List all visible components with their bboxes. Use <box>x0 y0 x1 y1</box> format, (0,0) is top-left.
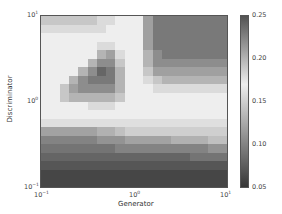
heatmap-cell <box>218 153 227 162</box>
heatmap-cell <box>171 161 180 170</box>
heatmap-cell <box>78 33 87 42</box>
heatmap-cell <box>106 127 115 136</box>
heatmap-cell <box>50 170 59 179</box>
heatmap-cell <box>199 93 208 102</box>
heatmap-cell <box>153 153 162 162</box>
heatmap-cell <box>143 153 152 162</box>
heatmap-cell <box>125 119 134 128</box>
heatmap-cell <box>41 153 50 162</box>
heatmap-cell <box>60 16 69 25</box>
heatmap-cell <box>190 178 199 187</box>
heatmap-cell <box>134 42 143 51</box>
heatmap-cell <box>125 16 134 25</box>
heatmap-cell <box>88 161 97 170</box>
heatmap-cell <box>115 84 124 93</box>
heatmap-cell <box>115 93 124 102</box>
heatmap-cell <box>218 84 227 93</box>
heatmap-cell <box>134 170 143 179</box>
heatmap-cell <box>171 50 180 59</box>
heatmap-cell <box>69 25 78 34</box>
heatmap-cell <box>78 102 87 111</box>
heatmap-cell <box>208 67 217 76</box>
heatmap-cell <box>106 16 115 25</box>
heatmap-cell <box>208 136 217 145</box>
heatmap-cell <box>171 178 180 187</box>
colorbar <box>240 15 249 188</box>
heatmap-cell <box>106 50 115 59</box>
heatmap-cell <box>190 102 199 111</box>
heatmap-cell <box>97 42 106 51</box>
heatmap-cell <box>199 161 208 170</box>
heatmap-cell <box>97 110 106 119</box>
heatmap-cell <box>162 59 171 68</box>
heatmap-cell <box>162 42 171 51</box>
heatmap-cell <box>50 110 59 119</box>
heatmap-cell <box>134 110 143 119</box>
heatmap-cell <box>171 102 180 111</box>
heatmap-cell <box>218 102 227 111</box>
heatmap-cell <box>50 136 59 145</box>
heatmap-cell <box>106 161 115 170</box>
heatmap-cell <box>190 42 199 51</box>
heatmap-cell <box>88 67 97 76</box>
heatmap-cell <box>60 33 69 42</box>
heatmap-cell <box>97 102 106 111</box>
heatmap-cell <box>218 33 227 42</box>
heatmap-cell <box>181 76 190 85</box>
heatmap-cell <box>181 110 190 119</box>
heatmap-cell <box>78 76 87 85</box>
heatmap-cell <box>69 170 78 179</box>
heatmap-cell <box>125 178 134 187</box>
heatmap-cell <box>78 59 87 68</box>
heatmap-cell <box>88 119 97 128</box>
heatmap-cell <box>171 144 180 153</box>
heatmap-cell <box>143 110 152 119</box>
heatmap-cell <box>106 59 115 68</box>
heatmap-cell <box>218 119 227 128</box>
heatmap-cell <box>134 178 143 187</box>
heatmap-cell <box>97 136 106 145</box>
heatmap-cell <box>153 161 162 170</box>
heatmap-cell <box>143 25 152 34</box>
heatmap-cell <box>218 161 227 170</box>
heatmap-cell <box>60 144 69 153</box>
heatmap-cell <box>115 59 124 68</box>
heatmap-cell <box>143 161 152 170</box>
heatmap-cell <box>190 153 199 162</box>
heatmap-cell <box>60 170 69 179</box>
heatmap-cell <box>181 102 190 111</box>
heatmap-cell <box>88 42 97 51</box>
heatmap-cell <box>60 25 69 34</box>
heatmap-cell <box>115 42 124 51</box>
heatmap-cell <box>181 127 190 136</box>
heatmap-cell <box>125 59 134 68</box>
heatmap-cell <box>171 33 180 42</box>
heatmap-cell <box>69 50 78 59</box>
heatmap-cell <box>97 93 106 102</box>
heatmap-cell <box>208 102 217 111</box>
heatmap-cell <box>153 50 162 59</box>
heatmap-cell <box>69 136 78 145</box>
heatmap-cell <box>143 67 152 76</box>
heatmap-cell <box>115 119 124 128</box>
heatmap-cell <box>153 16 162 25</box>
heatmap-cell <box>41 93 50 102</box>
heatmap-cell <box>181 84 190 93</box>
heatmap-cell <box>115 50 124 59</box>
heatmap-cell <box>106 93 115 102</box>
heatmap-cell <box>88 110 97 119</box>
heatmap-cell <box>218 93 227 102</box>
heatmap-cell <box>134 144 143 153</box>
heatmap-cell <box>50 93 59 102</box>
heatmap-cell <box>181 153 190 162</box>
heatmap-cell <box>208 33 217 42</box>
heatmap-cell <box>171 119 180 128</box>
heatmap-cell <box>162 84 171 93</box>
heatmap-cell <box>171 25 180 34</box>
heatmap-cell <box>162 178 171 187</box>
heatmap-cell <box>60 102 69 111</box>
heatmap-cell <box>190 33 199 42</box>
heatmap-cell <box>106 67 115 76</box>
heatmap-cell <box>190 136 199 145</box>
heatmap-cell <box>41 127 50 136</box>
